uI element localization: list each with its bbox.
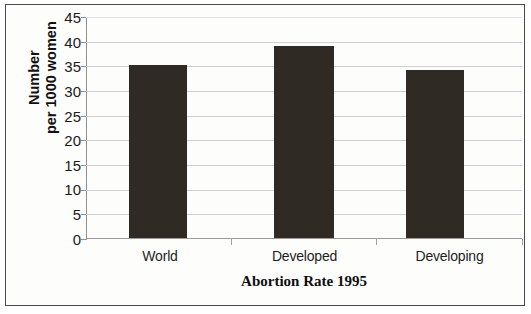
category-separator-2 bbox=[376, 239, 377, 245]
x-axis-title: Abortion Rate 1995 bbox=[86, 273, 522, 290]
category-separator-1 bbox=[231, 239, 232, 245]
bar-developed bbox=[274, 46, 334, 238]
plot-area bbox=[86, 17, 522, 239]
y-tick-label-25: 25 bbox=[47, 109, 81, 124]
y-tick-label-15: 15 bbox=[47, 158, 81, 173]
y-tick-label-0: 0 bbox=[47, 232, 81, 247]
y-tick-label-30: 30 bbox=[47, 84, 81, 99]
bar-world bbox=[129, 65, 187, 238]
y-axis-title: Number per 1000 women bbox=[26, 3, 59, 153]
category-label-developing: Developing bbox=[377, 248, 522, 264]
y-tick-label-40: 40 bbox=[47, 35, 81, 50]
y-tick-label-45: 45 bbox=[47, 10, 81, 25]
gridline-40 bbox=[86, 42, 522, 43]
x-axis-baseline bbox=[86, 238, 522, 239]
category-label-developed: Developed bbox=[232, 248, 377, 264]
bar-developing bbox=[406, 70, 464, 238]
bar-chart: Number per 1000 women 45 40 35 30 25 20 … bbox=[6, 5, 526, 307]
y-axis-title-line-2: per 1000 women bbox=[43, 3, 60, 153]
category-label-world: World bbox=[88, 248, 232, 264]
figure-frame: Number per 1000 women 45 40 35 30 25 20 … bbox=[5, 4, 525, 306]
y-axis-title-line-1: Number bbox=[26, 3, 43, 153]
category-separator-3 bbox=[522, 239, 523, 245]
gridline-45 bbox=[86, 17, 522, 18]
y-tick-label-35: 35 bbox=[47, 59, 81, 74]
y-tick-label-20: 20 bbox=[47, 133, 81, 148]
y-tick-label-5: 5 bbox=[47, 207, 81, 222]
y-tick-label-10: 10 bbox=[47, 182, 81, 197]
